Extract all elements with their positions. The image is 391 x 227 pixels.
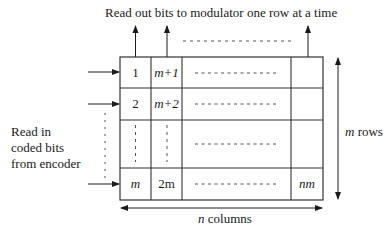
cell-r1c1: 1 (132, 65, 139, 80)
cols-label: n columns (198, 211, 252, 226)
cell-r4c1: m (131, 176, 140, 191)
diagram-title: Read out bits to modulator one row at a … (105, 5, 337, 20)
cell-r4c2: 2m (158, 176, 175, 191)
cell-r4c4: nm (299, 176, 315, 191)
rows-label: m rows (345, 124, 383, 139)
cell-r1c2: m+1 (154, 65, 179, 80)
cell-r2c2: m+2 (154, 96, 179, 111)
cell-r2c1: 2 (132, 96, 139, 111)
rows-label-text: rows (354, 124, 383, 139)
input-label-line3: from encoder (11, 156, 81, 171)
cell-r4c2-text: 2m (158, 176, 175, 191)
input-label-line1: Read in (11, 124, 52, 139)
interleaver-diagram: Read out bits to modulator one row at a … (0, 0, 391, 227)
input-label-line2: coded bits (11, 140, 64, 155)
rows-label-var: m (345, 124, 354, 139)
cols-label-text: columns (205, 211, 252, 226)
